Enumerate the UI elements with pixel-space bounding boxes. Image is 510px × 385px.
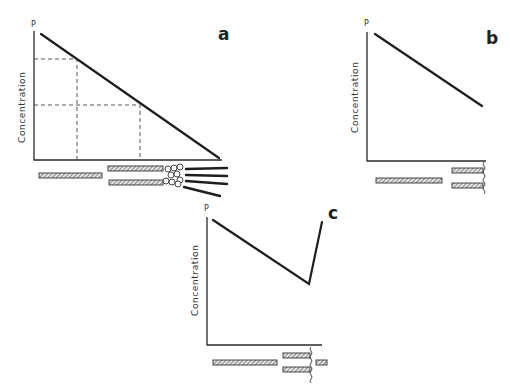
panel-a-y-axis-label: Concentration	[17, 72, 27, 143]
panel-b-y-axis-label: Concentration	[350, 62, 360, 133]
panel-c: P c Concentration	[190, 203, 338, 383]
panel-b-hatched-segment	[452, 168, 483, 173]
panel-c-concentration-line	[213, 220, 322, 284]
panel-c-hatched-segment	[283, 353, 310, 358]
figure-canvas: P a Concentration	[0, 0, 510, 385]
panel-b-hatched-segment	[452, 183, 483, 188]
panel-c-hatched-segment-short	[316, 360, 327, 365]
panel-a-dashed-guide-upper	[34, 59, 77, 160]
panel-b-origin-label: P	[364, 19, 369, 28]
panel-c-break-line	[310, 347, 312, 383]
panel-b-letter: b	[486, 28, 498, 48]
panel-a-splayed-fibers	[184, 168, 227, 196]
panel-c-hatched-segment	[283, 367, 310, 372]
panel-a-concentration-line	[41, 34, 219, 158]
panel-a-dashed-guide-lower	[34, 105, 140, 160]
panel-b-break-line	[483, 162, 485, 194]
panel-b-hatched-segment	[376, 178, 442, 183]
panel-a-hatched-segment	[39, 173, 102, 178]
panel-b-concentration-line	[375, 34, 482, 106]
panel-b: P b Concentration	[350, 19, 498, 194]
panel-a: P a Concentration	[17, 20, 229, 196]
panel-c-origin-label: P	[204, 204, 209, 213]
panel-c-letter: c	[328, 203, 338, 223]
panel-a-origin-label: P	[31, 20, 36, 29]
panel-a-hatched-segment	[108, 166, 163, 171]
panel-c-hatched-segment	[213, 360, 277, 365]
panel-c-y-axis-label: Concentration	[190, 245, 200, 316]
panel-a-letter: a	[218, 24, 229, 44]
panel-a-hatched-segment	[109, 180, 163, 185]
panel-a-circle-cluster	[163, 164, 183, 187]
